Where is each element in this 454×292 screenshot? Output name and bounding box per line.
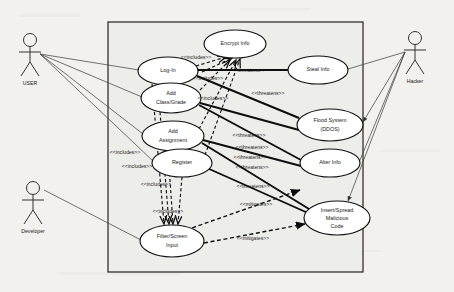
stereotype-threatens-6: <<threatens>> [235, 164, 268, 170]
use-case-alter-info-label: Alter Info [319, 159, 341, 165]
use-case-add-assignment-label-1: Add [168, 128, 178, 134]
use-case-log-in[interactable]: Log-In [138, 57, 198, 85]
stereotype-threatens-1: <<threatens>> [232, 67, 265, 73]
use-case-log-in-label: Log-In [160, 67, 175, 73]
use-case-malicious-code-label-3: Code [331, 223, 344, 229]
use-case-diagram-canvas: USER Developer Hacker [0, 0, 454, 292]
use-case-register-label: Register [172, 159, 192, 165]
use-case-flood-system-label-1: Flood System [314, 117, 347, 123]
stereotype-threatens-2: <<threatens>> [251, 90, 284, 96]
actor-developer[interactable]: Developer [21, 182, 45, 235]
use-case-encrypt-info[interactable]: Encrypt Info [204, 30, 266, 58]
stereotype-threatens-4: <<threatens>> [235, 144, 268, 150]
use-case-encrypt-info-label: Encrypt Info [221, 40, 250, 46]
use-case-flood-system-ddos[interactable]: Flood System (DDOS) [297, 109, 363, 141]
stereotype-threatens-3: <<threatens>> [232, 132, 265, 138]
stereotype-threatens-7: <<threatens>> [236, 183, 269, 189]
use-case-register[interactable]: Register [152, 149, 212, 177]
use-case-filter-screen-input[interactable]: Filter/Screen Input [140, 225, 204, 257]
use-case-filter-screen-input-label-1: Filter/Screen [157, 233, 188, 239]
use-case-add-class-grade[interactable]: Add Class/Grade [141, 83, 201, 113]
use-case-malicious-code-label-1: Insert/Spread [321, 207, 353, 213]
use-case-flood-system-label-2: (DDOS) [320, 126, 339, 132]
actor-hacker-label: Hacker [407, 78, 424, 84]
stereotype-mitigates-1: <<mitigates>> [240, 201, 272, 207]
use-case-add-assignment[interactable]: Add Assignment [142, 121, 204, 151]
stereotype-mitigates-2: <<mitigates>> [237, 235, 269, 241]
use-case-steal-info-label: Steal Info [307, 66, 330, 72]
use-case-alter-info[interactable]: Alter Info [300, 149, 360, 177]
use-case-add-class-grade-label-2: Class/Grade [156, 99, 186, 105]
actor-user[interactable]: USER [19, 34, 41, 87]
stereotype-includes-7: <<includes>> [153, 208, 184, 214]
stereotype-includes-1: <<includes>> [181, 54, 212, 60]
use-case-malicious-code-label-2: Malicious [326, 215, 349, 221]
use-case-add-assignment-label-2: Assignment [159, 137, 188, 143]
use-case-steal-info[interactable]: Steal Info [288, 56, 348, 84]
stereotype-includes-3: <<includes>> [198, 95, 229, 101]
use-case-insert-spread-malicious-code[interactable]: Insert/Spread Malicious Code [304, 201, 370, 235]
assoc-hacker-alter-info [360, 52, 405, 160]
use-case-add-class-grade-label-1: Add [166, 90, 176, 96]
stereotype-includes-6: <<includes>> [141, 181, 172, 187]
actor-developer-label: Developer [21, 228, 45, 234]
actor-hacker[interactable]: Hacker [404, 32, 426, 85]
actor-user-label: USER [23, 80, 38, 86]
stereotype-includes-5: <<includes>> [122, 163, 153, 169]
stereotype-includes-4: <<includes>> [110, 149, 141, 155]
stereotype-includes-2: <<includes>> [193, 75, 224, 81]
stereotype-threatens-5: <<threatens>> [233, 154, 266, 160]
use-case-filter-screen-input-label-2: Input [166, 242, 178, 248]
